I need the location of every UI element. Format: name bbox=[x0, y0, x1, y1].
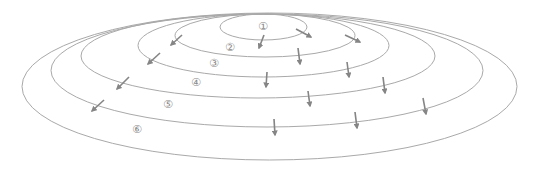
arrow-icon bbox=[266, 72, 267, 87]
diagram-canvas: ①②③④⑤⑥ bbox=[0, 0, 533, 169]
arrow-icon bbox=[298, 48, 300, 64]
arrow-icon bbox=[274, 119, 275, 135]
arrow-icon bbox=[117, 77, 129, 89]
region-label-5: ⑤ bbox=[163, 98, 173, 111]
region-label-4: ④ bbox=[191, 76, 201, 89]
region-label-6: ⑥ bbox=[132, 123, 142, 136]
arrow-icon bbox=[308, 91, 310, 106]
ring-6 bbox=[22, 13, 517, 160]
arrow-icon bbox=[259, 35, 264, 48]
nested-ellipse-diagram: ①②③④⑤⑥ bbox=[0, 0, 533, 169]
arrow-icon bbox=[355, 112, 357, 128]
region-label-1: ① bbox=[258, 20, 268, 33]
region-label-3: ③ bbox=[209, 57, 219, 70]
arrow-icon bbox=[92, 100, 104, 111]
arrow-icon bbox=[423, 98, 426, 114]
arrow-icon bbox=[383, 77, 385, 93]
region-label-2: ② bbox=[225, 41, 235, 54]
arrow-icon bbox=[347, 62, 349, 77]
arrow-icon bbox=[296, 29, 311, 37]
rings-group bbox=[22, 13, 517, 160]
